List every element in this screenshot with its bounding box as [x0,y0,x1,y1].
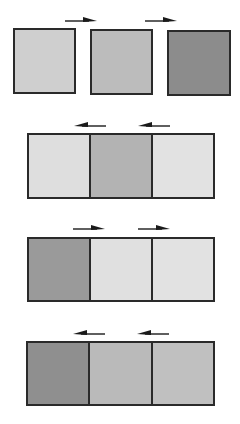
arrow-left-icon [73,329,105,337]
cell-row2-1 [29,135,89,197]
cell-row2-3 [151,135,213,197]
arrow-right-icon [73,224,105,232]
arrow-right-icon [65,16,97,24]
strip-row3 [27,237,215,302]
cell-row3-3 [151,239,213,300]
cell-row3-2 [89,239,151,300]
cell-row4-3 [151,343,213,404]
cell-row2-2 [89,135,151,197]
arrow-right-icon [145,16,177,24]
arrow-left-icon [138,121,170,129]
cell-row1-2 [90,29,153,95]
arrow-left-icon [137,329,169,337]
cell-row1-1 [13,28,76,94]
arrow-left-icon [74,121,106,129]
cell-row4-2 [88,343,150,404]
cell-row1-3 [167,30,231,96]
strip-row4 [26,341,215,406]
cell-row4-1 [28,343,88,404]
strip-row2 [27,133,215,199]
arrow-right-icon [138,224,170,232]
cell-row3-1 [29,239,89,300]
